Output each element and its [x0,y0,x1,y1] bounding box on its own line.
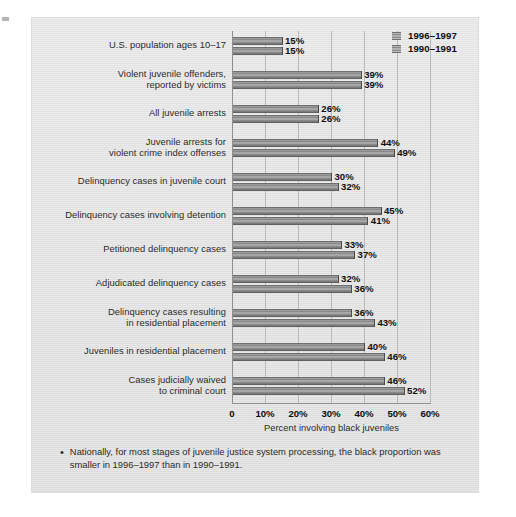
bar-value-label: 32% [341,181,360,192]
bar-chart: 1996–1997 1990–1991 U.S. population ages… [32,18,478,492]
category-label: U.S. population ages 10–17 [46,40,226,51]
bar-value-label: 15% [285,45,304,56]
legend-item-1990-1991: 1990–1991 [392,43,457,54]
xtick-60: 60% [420,408,439,419]
legend: 1996–1997 1990–1991 [392,30,457,56]
bar-value-label: 36% [354,307,373,318]
gridline-60pct [430,31,431,403]
xtick-50: 50% [387,408,406,419]
legend-swatch-icon [392,45,401,53]
bar-value-label: 41% [371,215,390,226]
category-label: Delinquency cases in juvenile court [46,176,226,187]
category-label: Cases judicially waivedto criminal court [46,375,226,396]
xtick-30: 30% [321,408,340,419]
legend-label: 1996–1997 [408,30,457,41]
x-axis-title: Percent involving black juveniles [232,422,431,433]
xtick-20: 20% [288,408,307,419]
category-label: Petitioned delinquency cases [46,244,226,255]
bar-value-label: 39% [364,79,383,90]
category-label: Juveniles in residential placement [46,346,226,357]
legend-swatch-icon [392,32,401,40]
gridline-50pct [397,31,398,403]
bar-value-label: 43% [377,317,396,328]
category-label: All juvenile arrests [46,108,226,119]
legend-label: 1990–1991 [408,43,457,54]
category-label: Delinquency cases resultingin residentia… [46,307,226,328]
figure-panel: 1996–1997 1990–1991 U.S. population ages… [32,18,478,492]
legend-item-1996-1997: 1996–1997 [392,30,457,41]
bar-value-label: 26% [321,113,340,124]
x-axis-line [232,403,431,404]
footnote-text: Nationally, for most stages of juvenile … [70,446,450,471]
bullet-icon: • [60,446,64,459]
category-label: Adjudicated delinquency cases [46,278,226,289]
xtick-10: 10% [255,408,274,419]
category-label: Delinquency cases involving detention [46,210,226,221]
category-label: Violent juvenile offenders,reported by v… [46,69,226,90]
category-label: Juvenile arrests forviolent crime index … [46,137,226,158]
footnote: • Nationally, for most stages of juvenil… [60,446,450,471]
bar-value-label: 52% [407,385,426,396]
xtick-40: 40% [354,408,373,419]
bar-value-label: 37% [358,249,377,260]
bar-value-label: 46% [387,351,406,362]
bar-value-label: 36% [354,283,373,294]
bar-value-label: 46% [387,375,406,386]
bar-value-label: 40% [368,341,387,352]
bar-value-label: 49% [397,147,416,158]
xtick-0: 0 [229,408,234,419]
scan-artifact-speck [2,17,9,21]
